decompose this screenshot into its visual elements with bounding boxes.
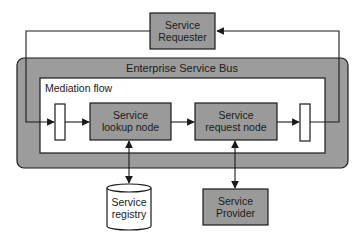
output-terminal <box>300 104 310 141</box>
mediation-flow: Mediation flow <box>40 78 325 153</box>
lookup-node-line1: Service <box>113 109 148 121</box>
service-requester-line1: Service <box>165 19 200 31</box>
input-terminal <box>55 104 65 140</box>
service-requester-node: Service Requester <box>150 13 215 49</box>
request-node-line1: Service <box>218 109 253 121</box>
service-registry-line2: registry <box>112 208 147 220</box>
lookup-node-line2: lookup node <box>102 121 159 133</box>
service-registry-node: Service registry <box>107 184 151 230</box>
service-provider-line2: Provider <box>216 207 256 219</box>
service-request-node: Service request node <box>195 103 277 140</box>
esb-mediation-diagram: Enterprise Service Bus Mediation flow Se… <box>0 0 362 243</box>
esb-label: Enterprise Service Bus <box>126 62 238 74</box>
mediation-flow-label: Mediation flow <box>45 82 113 94</box>
service-registry-line1: Service <box>111 196 146 208</box>
request-node-line2: request node <box>205 121 266 133</box>
service-provider-line1: Service <box>218 195 253 207</box>
service-provider-node: Service Provider <box>203 189 268 225</box>
service-lookup-node: Service lookup node <box>90 103 171 140</box>
service-requester-line2: Requester <box>158 31 207 43</box>
